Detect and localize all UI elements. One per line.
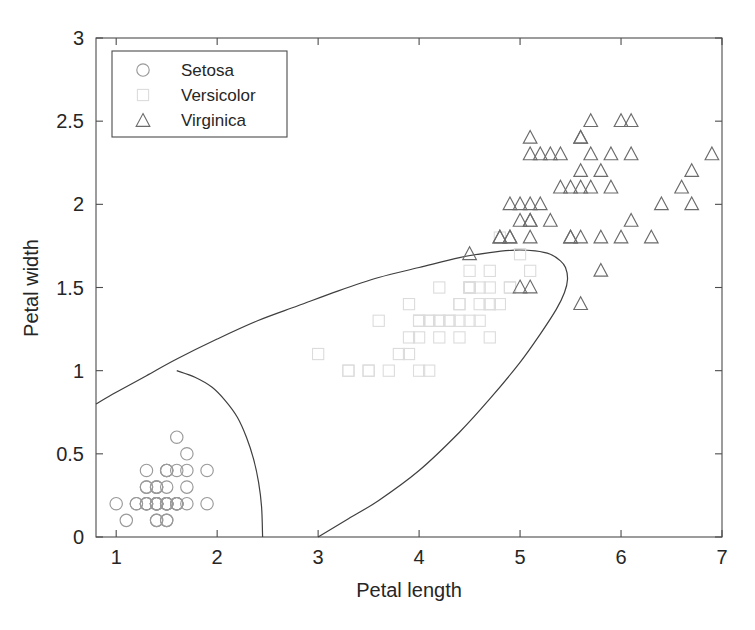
data-point-marker (474, 299, 485, 310)
data-point-marker (484, 265, 495, 276)
data-point-marker (403, 332, 414, 343)
setosa-versicolor-boundary (96, 250, 568, 537)
series-setosa-markers (110, 431, 213, 527)
series-virginica-markers (463, 114, 719, 310)
data-point-marker (464, 315, 475, 326)
data-point-marker (584, 147, 598, 160)
data-point-marker (343, 365, 354, 376)
legend-label: Versicolor (181, 86, 256, 105)
data-point-marker (594, 263, 608, 276)
data-point-marker (614, 230, 628, 243)
data-point-marker (464, 282, 475, 293)
data-point-marker (373, 315, 384, 326)
data-point-marker (645, 230, 659, 243)
data-point-marker (523, 130, 537, 143)
data-point-marker (434, 332, 445, 343)
data-point-marker (414, 315, 425, 326)
data-point-marker (434, 315, 445, 326)
x-tick-label: 2 (212, 546, 223, 568)
data-point-marker (464, 282, 475, 293)
data-point-marker (685, 164, 699, 177)
data-point-marker (424, 315, 435, 326)
data-point-marker (414, 315, 425, 326)
y-axis-label: Petal width (20, 239, 42, 337)
y-axis-tick-labels: 00.511.522.53 (56, 27, 84, 548)
data-point-marker (574, 130, 588, 143)
data-point-marker (464, 282, 475, 293)
data-point-marker (343, 365, 354, 376)
y-tick-label: 1.5 (56, 277, 84, 299)
data-point-marker (464, 282, 475, 293)
data-point-marker (464, 282, 475, 293)
x-tick-label: 7 (716, 546, 727, 568)
y-tick-label: 3 (73, 27, 84, 49)
legend-label: Virginica (181, 111, 246, 130)
x-tick-label: 1 (111, 546, 122, 568)
data-point-marker (484, 282, 495, 293)
data-point-marker (474, 315, 485, 326)
data-point-marker (463, 247, 477, 260)
data-point-marker (624, 147, 638, 160)
data-point-marker (494, 299, 505, 310)
data-point-marker (474, 282, 485, 293)
data-point-marker (434, 315, 445, 326)
data-point-marker (574, 130, 588, 143)
data-point-marker (383, 365, 394, 376)
setosa-inner-boundary (177, 371, 263, 537)
data-point-marker (454, 299, 465, 310)
figure-container: 1234567 00.511.522.53 SetosaVersicolorVi… (0, 0, 755, 630)
data-point-marker (424, 315, 435, 326)
scatter-plot: 1234567 00.511.522.53 SetosaVersicolorVi… (0, 0, 755, 630)
data-point-marker (414, 365, 425, 376)
data-point-marker (544, 214, 558, 227)
data-point-marker (484, 299, 495, 310)
data-point-marker (655, 197, 669, 210)
legend-label: Setosa (181, 61, 234, 80)
data-point-marker (120, 514, 132, 526)
data-point-marker (574, 297, 588, 310)
y-tick-label: 1 (73, 360, 84, 382)
x-tick-label: 6 (615, 546, 626, 568)
data-point-marker (685, 197, 699, 210)
x-axis-tick-labels: 1234567 (111, 546, 728, 568)
data-point-marker (594, 164, 608, 177)
data-point-marker (201, 464, 213, 476)
data-point-marker (363, 365, 374, 376)
data-point-marker (403, 299, 414, 310)
y-tick-label: 0.5 (56, 443, 84, 465)
x-tick-label: 4 (414, 546, 425, 568)
data-point-marker (110, 498, 122, 510)
data-point-marker (525, 265, 536, 276)
data-point-marker (454, 332, 465, 343)
data-point-marker (444, 315, 455, 326)
data-point-marker (403, 348, 414, 359)
data-point-marker (424, 365, 435, 376)
x-tick-label: 3 (313, 546, 324, 568)
data-point-marker (140, 464, 152, 476)
data-point-marker (675, 180, 689, 193)
data-point-marker (624, 214, 638, 227)
data-point-marker (393, 348, 404, 359)
series-versicolor-markers (313, 232, 536, 376)
data-point-marker (181, 448, 193, 460)
data-point-marker (171, 431, 183, 443)
data-point-marker (584, 114, 598, 127)
data-point-marker (201, 498, 213, 510)
data-point-marker (523, 230, 537, 243)
y-tick-label: 2.5 (56, 110, 84, 132)
decision-boundaries (96, 250, 568, 537)
legend: SetosaVersicolorVirginica (112, 51, 287, 137)
data-point-marker (454, 315, 465, 326)
y-tick-label: 0 (73, 526, 84, 548)
data-point-marker (705, 147, 719, 160)
x-axis-label: Petal length (356, 579, 462, 601)
data-point-marker (414, 315, 425, 326)
data-point-marker (313, 348, 324, 359)
data-point-marker (484, 299, 495, 310)
data-point-marker (484, 332, 495, 343)
data-point-marker (604, 180, 618, 193)
data-point-marker (444, 315, 455, 326)
data-point-marker (574, 164, 588, 177)
data-point-marker (363, 365, 374, 376)
data-point-marker (464, 265, 475, 276)
